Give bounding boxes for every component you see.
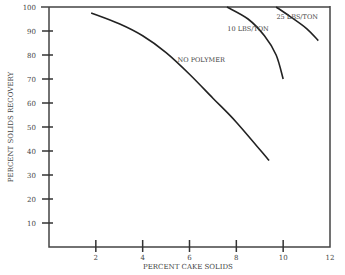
chart: 10203040506070809010024681012PERCENT CAK…	[0, 0, 345, 275]
annotation-label: 25 LBS/TON	[276, 13, 318, 21]
x-tick-label: 10	[279, 254, 288, 262]
axis-frame	[41, 6, 330, 247]
x-tick-label: 4	[140, 254, 145, 262]
y-tick-label: 50	[27, 124, 36, 132]
y-tick-label: 80	[27, 52, 36, 60]
x-axis-label: PERCENT CAKE SOLIDS	[143, 263, 233, 271]
series-line-no-polymer	[91, 13, 269, 161]
x-tick-label: 12	[326, 254, 335, 262]
y-tick-label: 20	[27, 196, 36, 204]
y-tick-label: 40	[27, 148, 36, 156]
x-tick-label: 8	[234, 254, 238, 262]
plot-area: 10203040506070809010024681012PERCENT CAK…	[0, 0, 345, 275]
annotation-label: 10 LBS/TON	[227, 25, 269, 33]
series-line-10-lbs-ton	[227, 7, 283, 79]
y-tick-label: 30	[27, 172, 36, 180]
y-tick-label: 10	[27, 220, 36, 228]
y-tick-label: 60	[27, 100, 36, 108]
y-tick-label: 90	[27, 28, 36, 36]
annotation-label: NO POLYMER	[178, 56, 226, 64]
y-tick-label: 100	[23, 4, 36, 12]
y-tick-label: 70	[27, 76, 36, 84]
y-axis-label: PERCENT SOLIDS RECOVERY	[7, 71, 15, 182]
x-tick-label: 6	[187, 254, 192, 262]
x-tick-label: 2	[94, 254, 98, 262]
